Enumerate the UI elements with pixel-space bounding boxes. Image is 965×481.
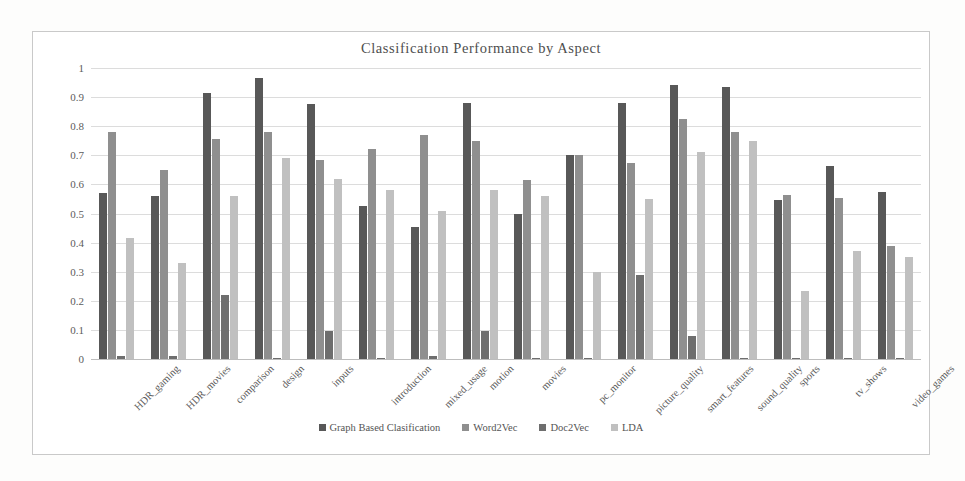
bar [697, 152, 705, 359]
y-tick-label: 0.5 [70, 208, 84, 220]
bar [541, 196, 549, 359]
bar [334, 179, 342, 359]
bar-group [454, 68, 506, 359]
bar [230, 196, 238, 359]
bar [221, 295, 229, 359]
y-tick-label: 0.9 [70, 91, 84, 103]
bar-group [247, 68, 299, 359]
y-tick-label: 0.1 [70, 324, 84, 336]
bar [722, 87, 730, 359]
legend-swatch-icon [611, 424, 618, 431]
bar [679, 119, 687, 359]
bar [905, 257, 913, 359]
bar [160, 170, 168, 359]
bar [99, 193, 107, 359]
bar [731, 132, 739, 359]
bar-group [91, 68, 143, 359]
chart-title: Classification Performance by Aspect [33, 40, 929, 57]
bar-group [610, 68, 662, 359]
bar-group [195, 68, 247, 359]
bar [670, 85, 678, 359]
legend-item: Graph Based Clasification [319, 422, 441, 433]
bar [255, 78, 263, 359]
y-tick-label: 0.7 [70, 149, 84, 161]
bar-group [350, 68, 402, 359]
chart-legend: Graph Based ClasificationWord2VecDoc2Vec… [33, 422, 929, 433]
bar [264, 132, 272, 359]
page-background: Classification Performance by Aspect 10.… [0, 0, 965, 481]
bar-group [558, 68, 610, 359]
bar [359, 206, 367, 359]
bar-group [714, 68, 766, 359]
y-tick-label: 0.4 [70, 237, 84, 249]
bar [438, 211, 446, 359]
bar [575, 155, 583, 359]
bar [386, 190, 394, 359]
bar [749, 141, 757, 359]
legend-swatch-icon [462, 424, 469, 431]
bar [774, 200, 782, 359]
legend-label: Doc2Vec [550, 422, 588, 433]
x-tick-label: video_games [909, 363, 956, 410]
y-tick-label: 0.2 [70, 295, 84, 307]
bar [126, 238, 134, 359]
legend-item: LDA [611, 422, 644, 433]
chart-frame: Classification Performance by Aspect 10.… [32, 31, 930, 455]
bar [368, 149, 376, 359]
bar-group [143, 68, 195, 359]
bar [645, 199, 653, 359]
bar [688, 336, 696, 359]
bar [636, 275, 644, 359]
bar [282, 158, 290, 359]
bar [307, 104, 315, 359]
bar [108, 132, 116, 359]
bar [514, 214, 522, 360]
legend-swatch-icon [319, 424, 326, 431]
bar [878, 192, 886, 359]
legend-label: Word2Vec [473, 422, 517, 433]
legend-item: Doc2Vec [539, 422, 588, 433]
bar [801, 291, 809, 359]
bar-group [662, 68, 714, 359]
bar [835, 198, 843, 360]
y-tick-label: 0.3 [70, 266, 84, 278]
bar [481, 331, 489, 359]
bar-group [299, 68, 351, 359]
bar [411, 227, 419, 359]
legend-label: LDA [622, 422, 644, 433]
bar [593, 272, 601, 359]
bar-groups [91, 68, 921, 359]
bar [853, 251, 861, 359]
bar-group [506, 68, 558, 359]
bar [783, 195, 791, 359]
bar-group [869, 68, 921, 359]
bar-group [817, 68, 869, 359]
plot-area: 10.90.80.70.60.50.40.30.20.10 [91, 68, 921, 359]
bar [618, 103, 626, 359]
bar [826, 166, 834, 360]
bar [627, 163, 635, 359]
y-tick-label: 0 [79, 353, 85, 365]
bar [472, 141, 480, 359]
bar [887, 246, 895, 359]
legend-swatch-icon [539, 424, 546, 431]
bar [178, 263, 186, 359]
y-tick-label: 1 [79, 62, 85, 74]
bar-group [402, 68, 454, 359]
bar [420, 135, 428, 359]
bar [151, 196, 159, 359]
y-tick-label: 0.6 [70, 178, 84, 190]
bar [463, 103, 471, 359]
bar [316, 160, 324, 359]
y-tick-label: 0.8 [70, 120, 84, 132]
bar [566, 155, 574, 359]
bar [212, 139, 220, 359]
bar [325, 331, 333, 359]
bar [490, 190, 498, 359]
bar [523, 180, 531, 359]
bar-group [765, 68, 817, 359]
legend-item: Word2Vec [462, 422, 517, 433]
legend-label: Graph Based Clasification [330, 422, 441, 433]
bar [203, 93, 211, 359]
